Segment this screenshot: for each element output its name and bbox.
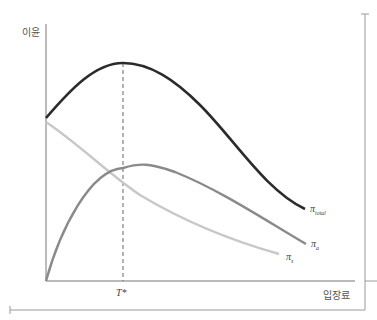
- x-axis-label: 입장료: [323, 287, 350, 302]
- curve-pi-total: [46, 63, 305, 209]
- profit-diagram: 이윤 입장료 T* πtotal πa πs: [0, 0, 377, 320]
- pi-s-label: πs: [286, 251, 293, 264]
- pi-total-label: πtotal: [310, 203, 326, 216]
- pi-a-label: πa: [311, 238, 319, 251]
- diagram-canvas: [0, 0, 377, 320]
- y-axis-label: 이윤: [22, 24, 40, 39]
- t-star-label: T*: [116, 287, 127, 298]
- curve-pi-s: [46, 122, 279, 254]
